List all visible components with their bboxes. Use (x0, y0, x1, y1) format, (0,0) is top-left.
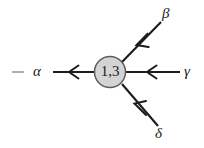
delta-label: δ (155, 126, 162, 141)
alpha-label: α (33, 64, 41, 79)
gamma-label: γ (184, 64, 190, 79)
delta-edge-line (122, 84, 158, 126)
delta-arrowhead-icon (135, 101, 147, 115)
vertex-node-label: 1,3 (101, 63, 120, 79)
beta-label: β (162, 6, 169, 21)
beta-edge-line (122, 22, 161, 62)
diagram-canvas: 1,3 (0, 0, 204, 148)
vertex-diagram-figure: 1,3 α β γ δ (0, 0, 204, 148)
